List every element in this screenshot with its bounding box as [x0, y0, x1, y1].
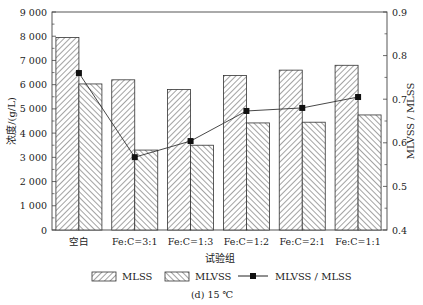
legend-item-mlvss: MLVSS — [165, 271, 232, 282]
bar-mlss — [112, 80, 135, 230]
bar-mlss — [56, 37, 79, 230]
bar-mlvss — [191, 145, 214, 230]
square-marker-icon — [243, 108, 249, 114]
y-tick-label: 5 000 — [20, 103, 47, 114]
y-tick-label: 8 000 — [20, 31, 47, 42]
y-tick-label: 4 000 — [20, 128, 47, 139]
hatch-backward-swatch-icon — [165, 272, 189, 281]
bar-mlvss — [79, 84, 102, 230]
x-category-label: Fe:C=1:3 — [168, 236, 213, 247]
y-tick-label: 7 000 — [20, 55, 47, 66]
x-axis-title: 试验组 — [205, 252, 235, 264]
y2-tick-label: 0.4 — [392, 225, 407, 236]
x-category-label: 空白 — [69, 236, 89, 247]
y2-tick-label: 0.5 — [392, 181, 407, 192]
bar-mlss — [279, 70, 302, 230]
y-tick-label: 0 — [41, 225, 47, 236]
bar-series — [56, 37, 381, 230]
legend-label: MLSS — [122, 271, 153, 282]
y2-axis-title: MLVSS / MLSS — [405, 83, 416, 160]
y2-tick-label: 0.8 — [392, 50, 407, 61]
y-tick-label: 3 000 — [20, 152, 47, 163]
y2-tick-label: 0.9 — [392, 7, 407, 18]
bar-mlvss — [358, 115, 381, 230]
chart-canvas: 01 0002 0003 0004 0005 0006 0007 0008 00… — [0, 0, 423, 305]
legend-label: MLVSS — [195, 271, 232, 282]
y-tick-label: 2 000 — [20, 176, 47, 187]
hatch-forward-swatch-icon — [92, 272, 116, 281]
x-axis: 空白Fe:C=3:1Fe:C=1:3Fe:C=1:2Fe:C=2:1Fe:C=1… — [69, 236, 381, 247]
bar-mlvss — [246, 123, 269, 230]
bar-mlss — [335, 65, 358, 230]
x-category-label: Fe:C=3:1 — [112, 236, 157, 247]
square-marker-icon — [132, 154, 138, 160]
bar-mlvss — [135, 150, 158, 230]
square-marker-icon — [299, 105, 305, 111]
legend: MLSS MLVSS MLVSS / MLSS — [92, 271, 352, 282]
legend-label: MLVSS / MLSS — [275, 271, 352, 282]
bar-mlss — [168, 90, 191, 230]
square-marker-icon — [76, 70, 82, 76]
figure-caption: (d) 15 ℃ — [191, 289, 234, 300]
x-category-label: Fe:C=1:1 — [335, 236, 380, 247]
y-tick-label: 1 000 — [20, 200, 47, 211]
square-marker-icon — [188, 138, 194, 144]
square-marker-icon — [250, 273, 256, 279]
bar-mlvss — [302, 122, 325, 230]
bar-mlss — [223, 75, 246, 230]
square-marker-icon — [355, 94, 361, 100]
x-category-label: Fe:C=2:1 — [280, 236, 325, 247]
x-category-label: Fe:C=1:2 — [224, 236, 269, 247]
y-tick-label: 6 000 — [20, 79, 47, 90]
y-tick-label: 9 000 — [20, 7, 47, 18]
left-y-axis: 01 0002 0003 0004 0005 0006 0007 0008 00… — [20, 7, 56, 236]
y-axis-title: 浓度/(g/L) — [5, 97, 17, 145]
legend-item-ratio: MLVSS / MLSS — [238, 271, 352, 282]
legend-item-mlss: MLSS — [92, 271, 153, 282]
